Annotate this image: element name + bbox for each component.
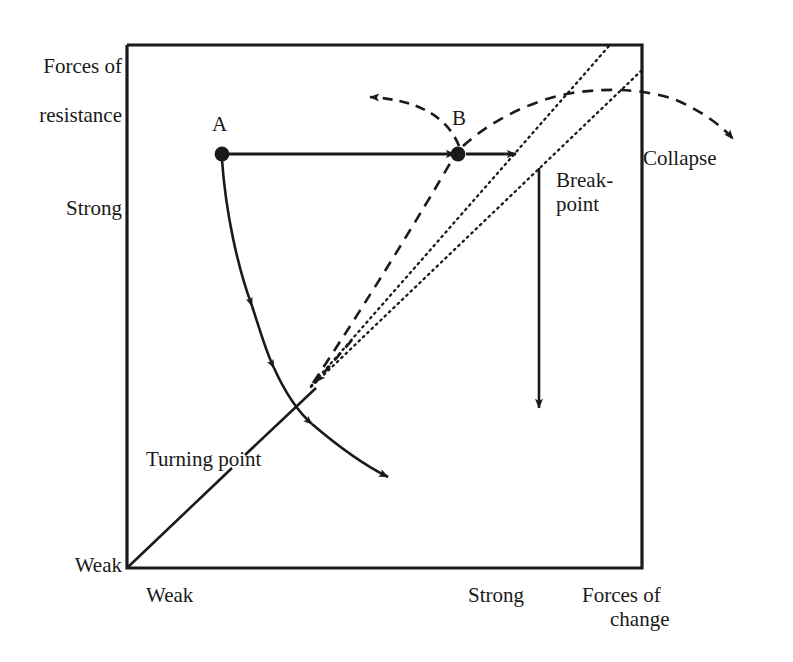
turning-point-label: Turning point xyxy=(146,447,261,471)
plot-frame xyxy=(127,45,642,568)
x-axis-title-line2: change xyxy=(610,607,712,631)
breakpoint-label: Break- point xyxy=(556,168,648,217)
y-tick-strong: Strong xyxy=(18,196,122,220)
collapse-label: Collapse xyxy=(643,146,717,170)
breakpoint-label-line2: point xyxy=(556,192,648,216)
y-axis-title: Forces of resistance xyxy=(18,30,122,152)
x-tick-weak: Weak xyxy=(146,583,193,607)
node-a-dot xyxy=(215,147,230,162)
y-axis-title-line1: Forces of xyxy=(43,54,122,78)
x-axis-title: Forces of change xyxy=(582,583,712,632)
x-axis-title-line1: Forces of xyxy=(582,583,661,607)
breakpoint-label-line1: Break- xyxy=(556,168,613,192)
curve-from-a-descending xyxy=(222,160,388,477)
x-tick-strong: Strong xyxy=(468,583,524,607)
turning-point-line xyxy=(127,388,316,568)
node-b-dot xyxy=(451,147,466,162)
y-tick-weak: Weak xyxy=(18,553,122,577)
dashed-branch-arrow xyxy=(370,97,459,146)
node-label-a: A xyxy=(212,112,227,136)
dashed-convergence-arrow xyxy=(316,340,352,382)
node-label-b: B xyxy=(452,106,466,130)
dashed-trajectory-curve xyxy=(313,90,733,383)
y-axis-title-line2: resistance xyxy=(39,103,122,127)
figure-container: Forces of resistance Strong Weak Weak St… xyxy=(0,0,793,662)
